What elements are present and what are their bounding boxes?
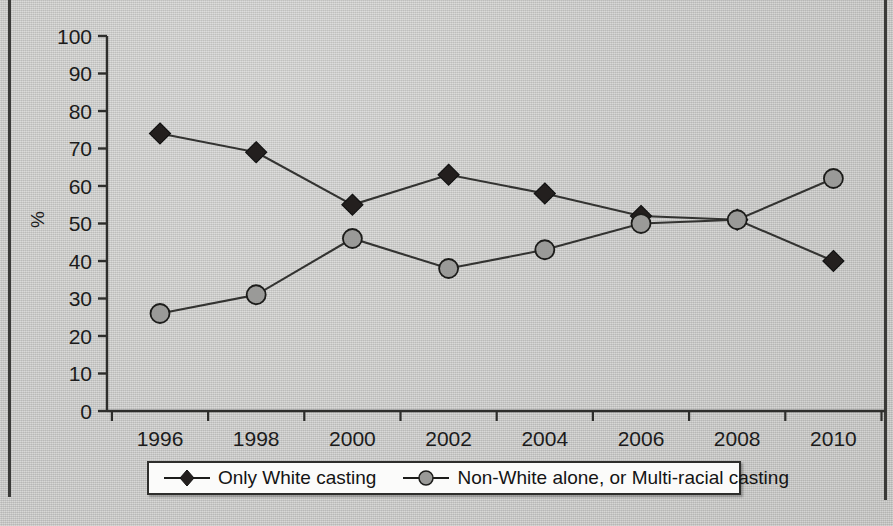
- x-axis: 19961998200020022004200620082010: [107, 411, 885, 450]
- data-point-marker: [439, 259, 458, 278]
- data-point-marker: [632, 214, 651, 233]
- y-axis: 0102030405060708090100: [57, 25, 107, 423]
- line-chart: 0102030405060708090100 19961998200020022…: [0, 0, 893, 526]
- y-axis-tick-label: 10: [69, 362, 92, 385]
- data-point-marker: [824, 169, 843, 188]
- data-point-marker: [150, 123, 171, 144]
- series-1: [150, 123, 844, 272]
- chart-svg: 0102030405060708090100 19961998200020022…: [0, 0, 893, 526]
- x-axis-tick-label: 1996: [137, 427, 184, 450]
- x-axis-tick-label: 1998: [233, 427, 280, 450]
- data-point-marker: [728, 210, 747, 229]
- legend-item-only-white-casting: Only White casting: [163, 463, 376, 493]
- legend-label-series-2: Non-White alone, or Multi-racial casting: [457, 467, 789, 489]
- data-series-layer: [150, 123, 844, 323]
- y-axis-tick-label: 70: [69, 137, 92, 160]
- y-axis-tick-label: 30: [69, 287, 92, 310]
- data-point-marker: [823, 251, 844, 272]
- series-2: [151, 169, 843, 323]
- data-point-marker: [246, 142, 267, 163]
- data-point-marker: [534, 183, 555, 204]
- x-axis-tick-label: 2008: [714, 427, 761, 450]
- data-point-marker: [151, 304, 170, 323]
- legend-item-non-white-casting: Non-White alone, or Multi-racial casting: [402, 463, 789, 493]
- data-point-marker: [438, 164, 459, 185]
- data-point-marker: [343, 229, 362, 248]
- y-axis-tick-label: 60: [69, 175, 92, 198]
- data-point-marker: [247, 285, 266, 304]
- y-axis-tick-label: 40: [69, 250, 92, 273]
- diamond-marker-icon: [163, 469, 211, 487]
- x-axis-tick-label: 2004: [521, 427, 568, 450]
- y-axis-tick-label: 0: [80, 400, 92, 423]
- legend-label-series-1: Only White casting: [218, 467, 376, 489]
- y-axis-tick-label: 50: [69, 212, 92, 235]
- x-axis-tick-label: 2002: [425, 427, 472, 450]
- x-axis-tick-label: 2010: [810, 427, 857, 450]
- chart-legend: Only White casting Non-White alone, or M…: [147, 461, 741, 495]
- x-axis-tick-label: 2000: [329, 427, 376, 450]
- y-axis-tick-label: 100: [57, 25, 92, 48]
- x-axis-tick-label: 2006: [618, 427, 665, 450]
- circle-marker-icon: [402, 469, 450, 487]
- data-point-marker: [342, 194, 363, 215]
- y-axis-tick-label: 20: [69, 325, 92, 348]
- data-point-marker: [535, 240, 554, 259]
- y-axis-tick-label: 80: [69, 100, 92, 123]
- y-axis-title: %: [27, 211, 48, 228]
- y-axis-tick-label: 90: [69, 62, 92, 85]
- y-axis-title-text: %: [27, 211, 48, 228]
